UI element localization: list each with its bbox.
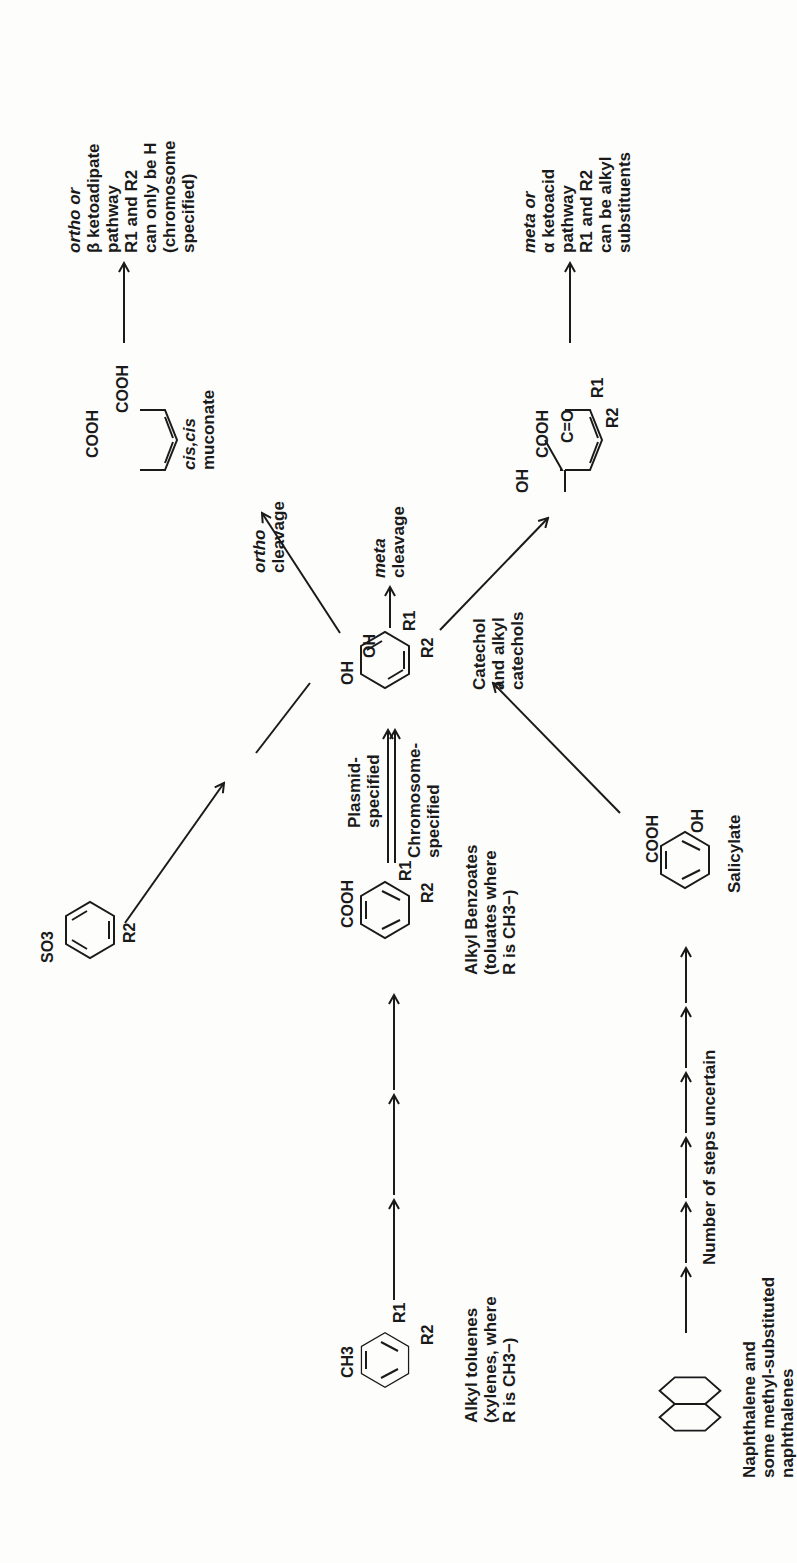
chromosome-specified-label: Chromosome- specified: [405, 743, 443, 858]
muconate-chain: [140, 410, 177, 470]
meta-product-co: C=O: [560, 410, 576, 443]
toluene-r1: R1: [392, 1303, 408, 1323]
meta-product-r1: R1: [590, 378, 606, 398]
toluene-ch3: CH3: [340, 1346, 356, 1378]
ortho-cleavage-label: ortho cleavage: [250, 501, 288, 573]
salicylate-cooh: COOH: [645, 815, 661, 863]
muconate-cooh1: COOH: [85, 410, 101, 458]
alkyl-toluenes-label: Alkyl toluenes (xylenes, where R is CH3−…: [462, 1296, 519, 1423]
catechol-oh1: OH: [340, 661, 356, 685]
sulfonate-so3: SO3: [40, 931, 56, 963]
meta-product-cooh: COOH: [535, 410, 551, 458]
meta-product-oh: OH: [515, 469, 531, 493]
salicylate-label: Salicylate: [725, 815, 744, 893]
steps-uncertain-label: Number of steps uncertain: [700, 1050, 719, 1265]
alkyl-benzoates-label: Alkyl Benzoates (toluates where R is CH3…: [462, 845, 519, 975]
meta-cleavage-label: meta cleavage: [370, 506, 408, 578]
naphthalene-label: Naphthalene and some methyl-substituted …: [740, 1277, 797, 1478]
plasmid-specified-label: Plasmid- specified: [345, 754, 383, 828]
catechol-r2: R2: [420, 638, 436, 658]
benzoate-r1: R1: [398, 861, 414, 881]
alkyl-toluene-ring: [361, 1333, 408, 1388]
muconate-cooh2: COOH: [115, 365, 131, 413]
catechol-label: Catechol and alkyl catechols: [470, 612, 527, 690]
meta-product-r2: R2: [605, 408, 621, 428]
sulfonate-r2: R2: [122, 923, 138, 943]
meta-pathway-label: meta or α ketoacid pathway R1 and R2 can…: [520, 152, 634, 253]
toluene-r2: R2: [420, 1325, 436, 1345]
catechol-r1: R1: [402, 611, 418, 631]
salicylate-oh: OH: [690, 809, 706, 833]
benzoate-r2: R2: [420, 883, 436, 903]
sulfonate-ring: [66, 902, 114, 958]
catechol-oh2: OH: [362, 634, 378, 658]
salicylate-ring: [661, 832, 709, 888]
naphthalene-rings: [660, 1377, 721, 1430]
ortho-pathway-label: ortho or β ketoadipate pathway R1 and R2…: [65, 141, 198, 253]
benzoate-cooh: COOH: [340, 880, 356, 928]
pathway-diagram: CH3 R1 R2 Alkyl toluenes (xylenes, where…: [0, 0, 797, 1563]
alkyl-benzoate-ring: [361, 882, 409, 938]
muconate-label: cis,cis muconate: [180, 390, 218, 470]
